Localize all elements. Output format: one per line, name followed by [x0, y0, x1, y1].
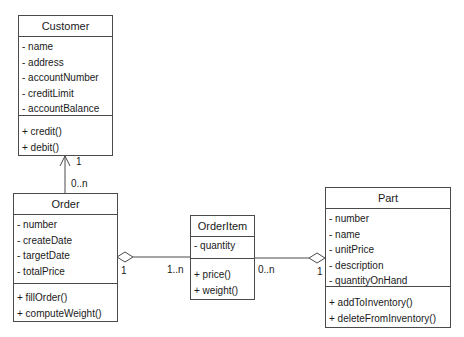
operations-compartment: + credit() + debit() — [19, 116, 112, 155]
class-name: Part — [326, 188, 450, 209]
class-name: OrderItem — [191, 216, 254, 237]
class-name: Customer — [19, 16, 112, 37]
attributes-compartment: - number - createDate - targetDate - tot… — [14, 215, 117, 284]
multiplicity-orderitem-to-part: 0..n — [258, 264, 275, 275]
attribute: - creditLimit — [22, 86, 112, 102]
operation: + deleteFromInventory() — [329, 311, 450, 327]
attribute: - name — [329, 227, 450, 243]
class-customer[interactable]: Customer - name - address - accountNumbe… — [18, 15, 113, 156]
multiplicity-order-to-customer: 0..n — [71, 178, 88, 189]
operation: + credit() — [22, 124, 112, 140]
operation: + addToInventory() — [329, 295, 450, 311]
operations-compartment: + price() + weight() — [191, 259, 254, 298]
multiplicity-order-to-orderitem: 1 — [121, 265, 127, 276]
class-orderitem[interactable]: OrderItem - quantity + price() + weight(… — [190, 215, 255, 300]
attribute: - description — [329, 258, 450, 274]
attribute: - accountNumber — [22, 70, 112, 86]
attribute: - targetDate — [17, 248, 117, 264]
aggregation-diamond-icon — [117, 252, 133, 262]
class-order[interactable]: Order - number - createDate - targetDate… — [13, 193, 118, 322]
multiplicity-customer: 1 — [76, 156, 82, 167]
attribute: - number — [329, 211, 450, 227]
attribute: - unitPrice — [329, 242, 450, 258]
attribute: - totalPrice — [17, 264, 117, 280]
class-part[interactable]: Part - number - name - unitPrice - descr… — [325, 187, 451, 328]
attribute: - address — [22, 55, 112, 71]
multiplicity-part: 1 — [317, 266, 323, 277]
operation: + weight() — [194, 283, 254, 299]
operations-compartment: + addToInventory() + deleteFromInventory… — [326, 287, 450, 326]
operation: + debit() — [22, 140, 112, 156]
attribute: - accountBalance — [22, 101, 112, 117]
attribute: - number — [17, 217, 117, 233]
operations-compartment: + fillOrder() + computeWeight() — [14, 284, 117, 321]
operation: + computeWeight() — [17, 306, 117, 322]
operation: + price() — [194, 267, 254, 283]
attributes-compartment: - name - address - accountNumber - credi… — [19, 37, 112, 116]
attribute: - createDate — [17, 233, 117, 249]
operation: + fillOrder() — [17, 290, 117, 306]
attributes-compartment: - number - name - unitPrice - descriptio… — [326, 209, 450, 287]
multiplicity-orderitem-from-order: 1..n — [167, 264, 184, 275]
attributes-compartment: - quantity — [191, 237, 254, 259]
aggregation-diamond-icon — [309, 253, 325, 263]
attribute: - name — [22, 39, 112, 55]
class-name: Order — [14, 194, 117, 215]
attribute: - quantity — [194, 238, 254, 254]
